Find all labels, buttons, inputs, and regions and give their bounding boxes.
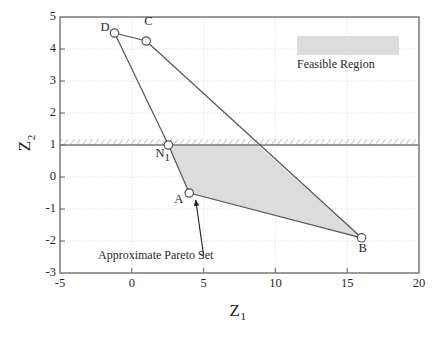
y-tick-label: -2 xyxy=(34,233,56,248)
point-label-a: A xyxy=(174,192,183,207)
y-tick-label: 2 xyxy=(34,105,56,120)
x-tick-label: 20 xyxy=(404,276,434,291)
feasible-region-label: Feasible Region xyxy=(297,57,375,72)
y-tick-label: -3 xyxy=(34,265,56,280)
feasible-region-shape xyxy=(168,145,361,238)
y-tick-label: 5 xyxy=(34,9,56,24)
point-label-d: D xyxy=(101,20,110,35)
y-tick-label: 3 xyxy=(34,73,56,88)
x-tick-label: 5 xyxy=(189,276,219,291)
y-tick-label: 4 xyxy=(34,41,56,56)
x-tick-label: 10 xyxy=(260,276,290,291)
y-tick-label: -1 xyxy=(34,201,56,216)
chart-figure: Z2 Z1 -505101520 543210-1-2-3 DCN1AB Fea… xyxy=(0,0,441,340)
y-tick-label: 0 xyxy=(34,169,56,184)
x-axis-title: Z1 xyxy=(208,301,268,322)
y-axis-title-text: Z xyxy=(15,140,34,151)
x-axis-title-text: Z xyxy=(230,301,241,320)
pareto-set-annotation: Approximate Pareto Set xyxy=(98,248,213,263)
constraint-line-z2 xyxy=(60,139,419,145)
x-axis-title-sub: 1 xyxy=(240,310,246,322)
point-label-c: C xyxy=(144,14,152,29)
x-tick-label: 0 xyxy=(117,276,147,291)
feasible-region-swatch xyxy=(297,36,399,55)
y-tick-label: 1 xyxy=(34,137,56,152)
x-tick-label: 15 xyxy=(332,276,362,291)
point-label-b: B xyxy=(359,241,367,256)
point-label-n1: N1 xyxy=(155,146,170,163)
